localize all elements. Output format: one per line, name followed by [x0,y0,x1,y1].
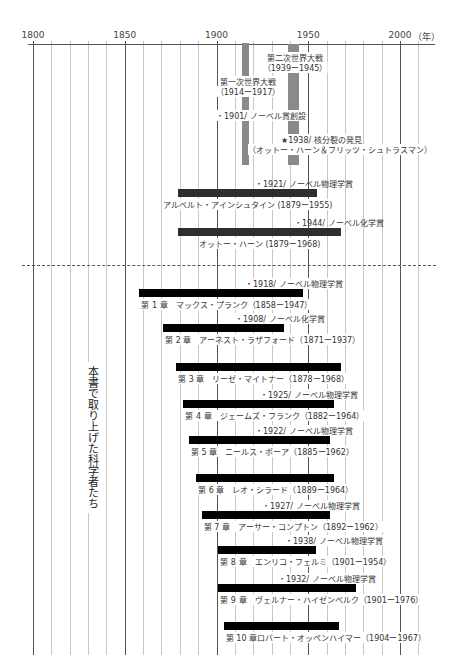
gridline [143,41,144,655]
tick-label: 1850 [113,30,136,40]
war-cap-ww2 [288,44,299,48]
person-label: 第 10 章ロバート・オッペンハイマー（1904ー1967） [226,632,426,643]
life-bar [218,584,356,592]
life-bar [178,228,341,236]
person-label: 第 7 章 アーサー・コンプトン（1892ー1962） [204,521,383,532]
person-label: オットー・ハーン (1879ー1968) [199,238,321,249]
tick-label: 1900 [205,30,228,40]
section-label: 本書で取り上げた科学者たち [83,362,101,513]
gridline [125,41,126,655]
ww2-range: （1939ー1945） [263,62,328,73]
life-bar [163,324,284,332]
person-label: アルベルト・アインシュタイン (1879ー1955) [163,199,333,210]
person-label: 第 2 章 アーネスト・ラザフォード（1871ー1937） [165,334,360,345]
tick-label: 1950 [297,30,320,40]
gridline [161,41,162,655]
annotation-1901: ・1901/ ノーベル賞創設 [216,110,306,121]
life-bar [189,436,330,444]
person-label: 第 9 章 ヴェルナー・ハイゼンベルク（1901ー1976） [220,594,423,605]
gridline [70,41,71,655]
award-label: ・1921/ ノーベル物理学賞 [255,178,353,189]
gridline [51,41,52,655]
award-label: ・1918/ ノーベル物理学賞 [245,278,343,289]
award-label: ・1922/ ノーベル物理学賞 [255,425,353,436]
gridline [33,41,34,655]
gridline [217,41,218,655]
person-label: 第 5 章 ニールス・ボーア（1885ー1962） [191,446,354,457]
timeline-chart: 18001850190019502000（年） 第二次世界大戦（1939ー194… [0,0,454,670]
life-bar [196,474,334,482]
person-label: 第 1 章 マックス・プランク（1858ー1947） [141,299,312,310]
x-axis [28,44,435,45]
life-bar [178,189,317,197]
life-bar [202,511,330,519]
section-divider [22,265,436,266]
award-label: ・1938/ ノーベル物理学賞 [285,535,383,546]
award-label: ・1908/ ノーベル化学賞 [235,313,325,324]
ww1-range: （1914ー1917） [216,86,281,97]
tick-label: 1800 [22,30,45,40]
annotation-1938-sub: （オットー・ハーン＆フリッツ・シュトラスマン） [248,144,432,155]
person-label: 第 4 章 ジェームズ・フランク（1882ー1964） [185,410,364,421]
award-label: ・1932/ ノーベル物理学賞 [278,573,376,584]
person-label: 第 8 章 エンリコ・フェルミ（1901ー1954） [220,556,391,567]
life-bar [176,363,341,371]
person-label: 第 3 章 リーゼ・マイトナー（1878ー1968） [178,373,349,384]
person-label: 第 6 章 レオ・シラード（1889ー1964） [198,484,353,495]
gridline [418,41,419,655]
life-bar [218,546,315,554]
award-label: ・1925/ ノーベル物理学賞 [260,389,358,400]
award-label: ・1927/ ノーベル物理学賞 [262,500,360,511]
award-label: ・1944/ ノーベル化学賞 [294,217,384,228]
gridline [106,41,107,655]
gridline [198,41,199,655]
tick-label: 2000 [389,30,412,40]
gridline [400,41,401,655]
gridline [180,41,181,655]
life-bar [183,400,333,408]
life-bar [139,289,302,297]
gridline [88,41,89,655]
x-unit-label: （年） [413,30,440,43]
life-bar [224,622,340,630]
